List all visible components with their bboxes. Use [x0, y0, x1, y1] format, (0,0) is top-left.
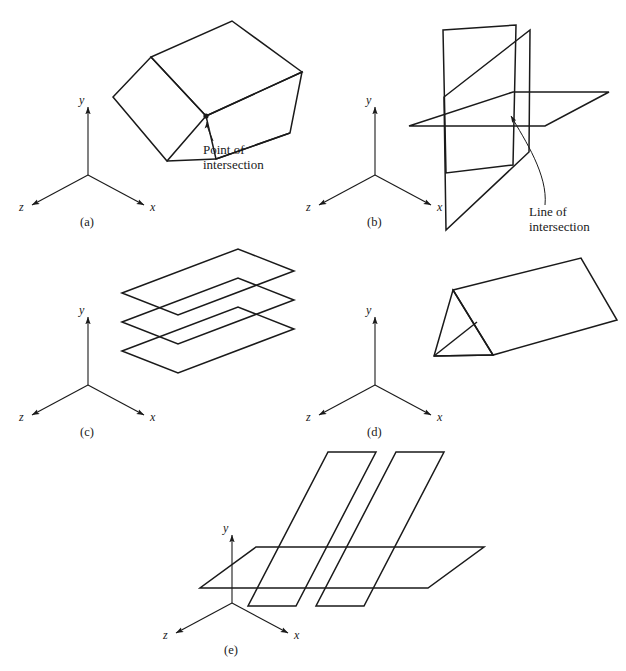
- x-axis-label-b: x: [436, 200, 443, 214]
- x-axis-d: [375, 385, 431, 415]
- z-axis-d: [319, 385, 375, 415]
- plane-e-horizontal: [200, 547, 484, 588]
- planes-group-c: [122, 249, 294, 373]
- x-axis-c: [88, 385, 144, 415]
- z-axis-label-b: z: [305, 200, 311, 214]
- panel-caption-d: (d): [367, 425, 382, 439]
- z-axis-e: [176, 603, 232, 633]
- plane-a-top: [151, 21, 302, 116]
- panel-caption-a: (a): [80, 215, 94, 229]
- planes-group-d: [434, 258, 617, 356]
- axis-triad-b: [319, 107, 431, 205]
- panel-caption-e: (e): [224, 643, 238, 657]
- plane-c-bottom: [122, 307, 294, 373]
- plane-d-base-edge: [434, 355, 493, 356]
- intersection-point-dot-a: [203, 113, 208, 118]
- z-axis-label-e: z: [162, 628, 168, 642]
- annotation-b-line1: Line of: [529, 204, 568, 219]
- plane-c-top: [122, 249, 294, 315]
- x-axis-a: [88, 175, 144, 205]
- plane-d-upper: [453, 258, 617, 355]
- annotation-b-line2: intersection: [529, 219, 590, 234]
- panel-caption-c: (c): [80, 425, 94, 439]
- annotation-leader-b: [511, 116, 545, 205]
- x-axis-label-d: x: [436, 410, 443, 424]
- panel-caption-b: (b): [367, 215, 382, 229]
- x-axis-b: [375, 175, 431, 205]
- z-axis-label-d: z: [305, 410, 311, 424]
- x-axis-label-a: x: [149, 200, 156, 214]
- planes-group-e: [200, 452, 484, 606]
- y-axis-label-d: y: [365, 303, 372, 317]
- annotation-a-line1: Point of: [203, 142, 245, 157]
- axis-triad-d: [319, 317, 431, 415]
- y-axis-label-e: y: [222, 521, 229, 535]
- z-axis-b: [319, 175, 375, 205]
- plane-c-middle: [122, 278, 294, 344]
- panel-e: y x z (e): [162, 452, 484, 657]
- panel-a: Point of intersection y x z (a): [18, 21, 302, 229]
- panel-b: Line of intersection y x z (b): [305, 25, 609, 234]
- panel-c: y x z (c): [18, 249, 294, 439]
- z-axis-label-c: z: [18, 410, 24, 424]
- panel-d: y x z (d): [305, 258, 617, 439]
- planes-intersection-figure: Point of intersection y x z (a): [0, 0, 626, 671]
- x-axis-label-e: x: [293, 628, 300, 642]
- plane-d-front-triangle: [434, 290, 493, 356]
- planes-group-a: [113, 21, 302, 161]
- plane-b-steep-2: [444, 30, 530, 230]
- z-axis-c: [32, 385, 88, 415]
- x-axis-label-c: x: [149, 410, 156, 424]
- plane-d-ridge-line: [434, 322, 477, 356]
- axis-triad-a: [32, 107, 144, 205]
- plane-b-horizontal: [409, 92, 609, 126]
- axis-triad-e: [176, 535, 288, 633]
- annotation-a-line2: intersection: [203, 157, 264, 172]
- y-axis-label-c: y: [78, 303, 85, 317]
- z-axis-a: [32, 175, 88, 205]
- axis-triad-c: [32, 317, 144, 415]
- y-axis-label-a: y: [78, 93, 85, 107]
- y-axis-label-b: y: [365, 93, 372, 107]
- z-axis-label-a: z: [18, 200, 24, 214]
- plane-a-left: [113, 57, 206, 161]
- x-axis-e: [232, 603, 288, 633]
- plane-b-steep-1: [443, 25, 516, 173]
